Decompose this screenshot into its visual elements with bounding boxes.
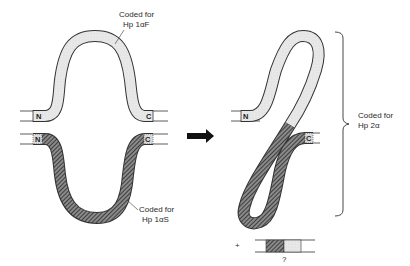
chain-hp1as: N C Coded for Hp 1αS bbox=[20, 134, 174, 224]
c-terminal-label: C bbox=[146, 112, 152, 121]
chain-hp1af-label-line1: Coded for bbox=[119, 10, 154, 19]
chain-hp2a: N C bbox=[231, 36, 320, 223]
question-mark: ? bbox=[282, 255, 287, 264]
n-terminal-label: N bbox=[36, 112, 41, 121]
byproduct-segment: + ? bbox=[235, 240, 315, 264]
n-terminal-label: N bbox=[35, 135, 40, 144]
haptoglobin-crossover-diagram: N C Coded for Hp 1αF N C Coded for Hp 1α… bbox=[0, 0, 410, 266]
c-terminal-label: C bbox=[306, 134, 312, 143]
c-terminal-label: C bbox=[145, 135, 151, 144]
chain-hp1af: N C Coded for Hp 1αF bbox=[20, 10, 168, 122]
bracket: Coded for Hp 2α bbox=[335, 32, 393, 216]
chain-hp1as-label-line1: Coded for bbox=[139, 205, 174, 214]
chain-hp1af-label-line2: Hp 1αF bbox=[123, 20, 150, 29]
bracket-label-line2: Hp 2α bbox=[358, 121, 380, 130]
chain-hp1as-label-line2: Hp 1αS bbox=[142, 215, 169, 224]
right-arrow-icon bbox=[187, 129, 214, 143]
n-terminal-label: N bbox=[243, 112, 248, 121]
plus-sign: + bbox=[235, 241, 240, 250]
bracket-label-line1: Coded for bbox=[358, 111, 393, 120]
